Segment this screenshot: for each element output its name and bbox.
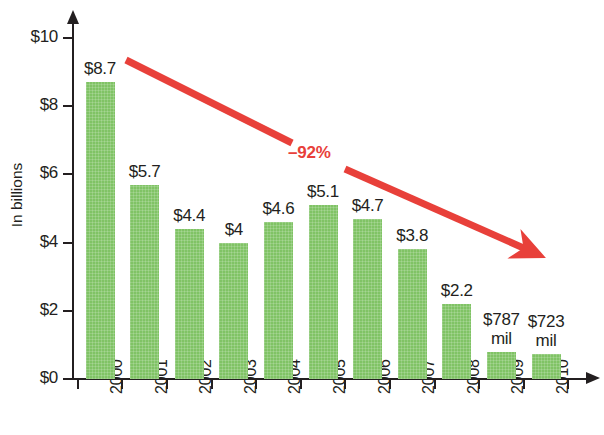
y-tick-label: $4 bbox=[40, 232, 58, 252]
bar[interactable] bbox=[398, 249, 427, 379]
bar-value-label: $4.6 bbox=[243, 199, 313, 218]
y-tick bbox=[63, 37, 73, 39]
y-tick bbox=[63, 378, 73, 380]
bar[interactable] bbox=[532, 354, 561, 379]
x-axis-arrowhead-icon bbox=[586, 372, 600, 384]
bar-value-label: $723 mil bbox=[511, 312, 581, 350]
bar-value-label: $5.7 bbox=[110, 162, 180, 181]
y-axis-arrowhead-icon bbox=[67, 10, 79, 24]
bar[interactable] bbox=[219, 243, 248, 379]
y-tick-label: $10 bbox=[31, 27, 58, 47]
y-tick bbox=[63, 173, 73, 175]
bar[interactable] bbox=[86, 82, 115, 379]
bar-value-label: $4.7 bbox=[333, 196, 403, 215]
bar[interactable] bbox=[264, 222, 293, 379]
y-tick bbox=[63, 242, 73, 244]
y-tick-label: $2 bbox=[40, 300, 58, 320]
bar-value-label: $2.2 bbox=[422, 281, 492, 300]
bar-value-label: $4 bbox=[199, 220, 269, 239]
trend-percent-label: –92% bbox=[288, 143, 331, 163]
y-tick-label: $0 bbox=[40, 368, 58, 388]
y-axis-title: In billions bbox=[8, 145, 26, 245]
y-tick bbox=[63, 105, 73, 107]
x-tick bbox=[77, 380, 79, 389]
bar[interactable] bbox=[309, 205, 338, 379]
bar[interactable] bbox=[175, 229, 204, 379]
y-tick-label: $8 bbox=[40, 95, 58, 115]
bar-value-label: $8.7 bbox=[65, 59, 135, 78]
bar-chart: In billions $0$2$4$6$8$10 20002001200220… bbox=[0, 0, 604, 435]
y-tick-label: $6 bbox=[40, 163, 58, 183]
bar[interactable] bbox=[487, 352, 516, 379]
y-tick bbox=[63, 310, 73, 312]
bar-value-label: $3.8 bbox=[377, 226, 447, 245]
